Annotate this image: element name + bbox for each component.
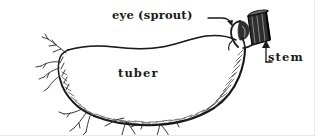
label-eye-sprout: eye (sprout) [112,10,193,22]
label-tuber: tuber [118,68,159,80]
label-stem: stem [268,52,304,64]
tuber-diagram-figure: eye (sprout) tuber stem [0,0,315,136]
roots-left [36,34,69,91]
image-bottom-edge [0,135,315,136]
image-right-edge [314,0,315,136]
tuber-body-outline [58,35,245,125]
eye-leader-arrowhead [227,20,233,26]
